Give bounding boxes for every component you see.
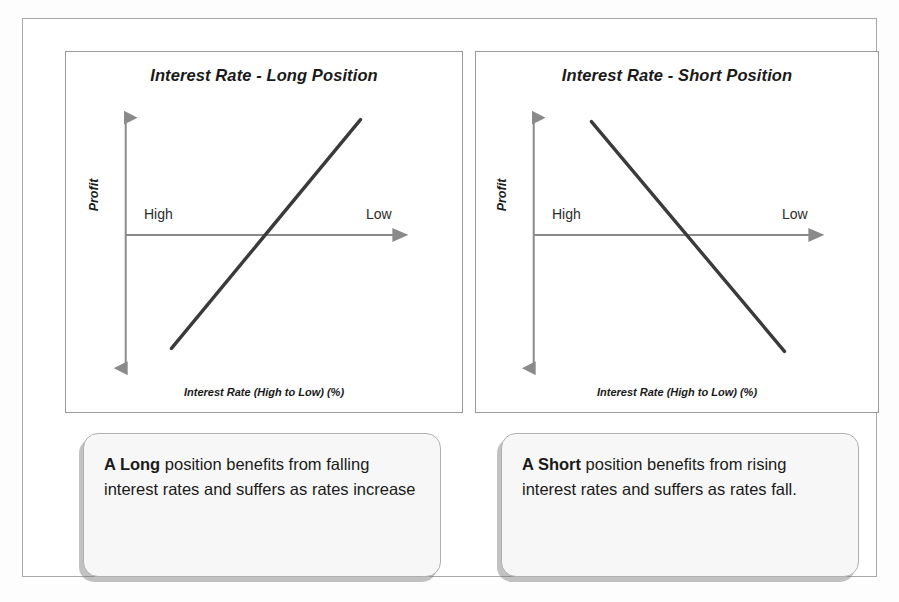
x-axis-caption-long: Interest Rate (High to Low) (%) <box>66 386 462 398</box>
x-tick-high-long: High <box>144 206 173 222</box>
caption-lead-long: A Long <box>104 455 160 473</box>
plot-area-short <box>476 52 878 412</box>
x-tick-high-short: High <box>552 206 581 222</box>
plot-area-long <box>66 52 462 412</box>
chart-panel-short-position: Interest Rate - Short Position <box>475 51 879 413</box>
caption-lead-short: A Short <box>522 455 581 473</box>
x-tick-low-long: Low <box>366 206 392 222</box>
caption-box-short: A Short position benefits from rising in… <box>501 433 859 577</box>
y-axis-label-long: Profit <box>87 165 101 225</box>
x-axis-caption-short: Interest Rate (High to Low) (%) <box>476 386 878 398</box>
chart-panel-long-position: Interest Rate - Long Position <box>65 51 463 413</box>
payoff-line-short <box>591 122 784 352</box>
figure-page: Interest Rate - Long Position <box>0 0 899 602</box>
y-axis-label-short: Profit <box>495 165 509 225</box>
x-tick-low-short: Low <box>782 206 808 222</box>
caption-box-long: A Long position benefits from falling in… <box>83 433 441 577</box>
caption-text-short: A Short position benefits from rising in… <box>522 452 838 502</box>
caption-text-long: A Long position benefits from falling in… <box>104 452 420 502</box>
outer-document-frame: Interest Rate - Long Position <box>22 18 877 577</box>
